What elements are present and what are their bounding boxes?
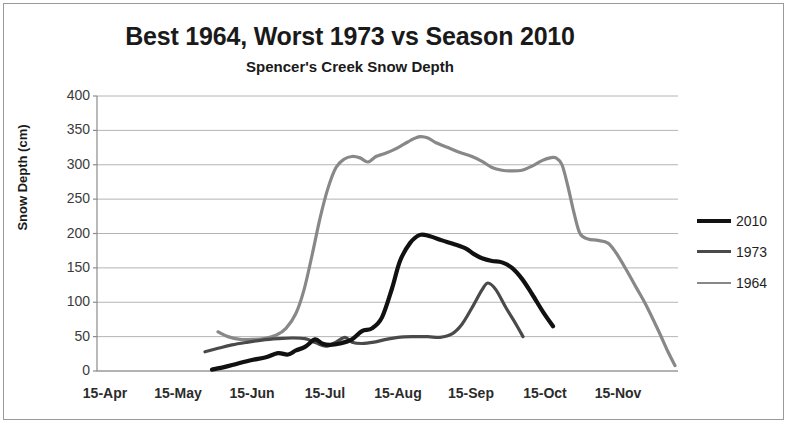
chart-legend: 201019731964 (697, 205, 783, 298)
legend-item[interactable]: 1964 (697, 267, 783, 298)
legend-label: 2010 (736, 213, 767, 229)
legend-swatch-1973 (697, 250, 731, 253)
series-line-1973 (205, 283, 523, 352)
legend-label: 1973 (736, 244, 767, 260)
legend-swatch-2010 (697, 219, 731, 223)
chart-container: Best 1964, Worst 1973 vs Season 2010 Spe… (0, 0, 789, 425)
series-line-1964 (218, 137, 675, 366)
legend-swatch-1964 (697, 282, 731, 284)
plot-area (0, 0, 789, 425)
legend-label: 1964 (736, 275, 767, 291)
legend-item[interactable]: 2010 (697, 205, 783, 236)
legend-item[interactable]: 1973 (697, 236, 783, 267)
